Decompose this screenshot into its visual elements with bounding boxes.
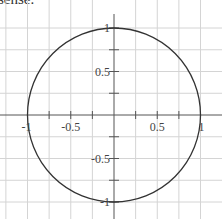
- y-tick-label: 0.5: [95, 65, 110, 79]
- x-tick-label: -0.5: [61, 120, 80, 134]
- y-tick-label: -1: [100, 195, 110, 209]
- y-tick-label: -0.5: [91, 152, 110, 166]
- x-tick-label: 1: [199, 120, 205, 134]
- unit-circle-plot: -1-0.50.5110.5-0.5-1: [0, 0, 222, 219]
- y-tick-label: 1: [104, 21, 110, 35]
- grid: [0, 0, 222, 219]
- axes: [0, 14, 222, 219]
- x-tick-label: -1: [22, 120, 32, 134]
- x-tick-label: 0.5: [150, 120, 165, 134]
